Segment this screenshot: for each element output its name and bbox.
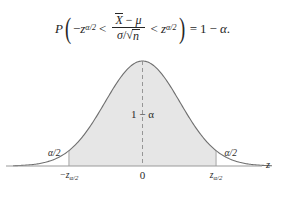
formula-fraction: X−μ σ/√n <box>112 13 144 44</box>
formula-right-bound-sub: α/2 <box>166 24 177 32</box>
formula-one: 1 <box>200 22 207 35</box>
formula-alpha: α <box>220 22 227 35</box>
formula-less-than-2: < <box>151 22 158 35</box>
tick-label-left: −zα/2 <box>59 170 79 181</box>
center-area-label: 1 − α <box>131 108 154 120</box>
formula-equals: = <box>190 22 197 35</box>
formula-xbar: X <box>115 13 122 27</box>
formula-less-than-1: < <box>99 22 106 35</box>
formula-numerator-minus: − <box>126 13 133 27</box>
statistics-figure: P ( −zα/2 < X−μ σ/√n < zα/2 ) = 1 − α. <box>0 0 285 197</box>
tick-label-center: 0 <box>140 169 146 181</box>
axis-label-z: z <box>265 159 270 170</box>
probability-formula: P ( −zα/2 < X−μ σ/√n < zα/2 ) = 1 − α. <box>0 4 285 52</box>
formula-radical-body: n <box>132 29 140 43</box>
formula-numerator: X−μ <box>112 13 144 28</box>
right-tail-label: α/2 <box>225 148 238 158</box>
formula-expression: P ( −zα/2 < X−μ σ/√n < zα/2 ) = 1 − α. <box>55 13 230 44</box>
tick-label-left-base: −z <box>59 170 69 180</box>
left-tail-label: α/2 <box>48 148 61 158</box>
normal-distribution-chart: z 1 − α α/2 α/2 −zα/2 0 zα/2 <box>0 52 285 197</box>
formula-denominator: σ/√n <box>114 28 143 43</box>
tick-label-right-sub: α/2 <box>213 174 222 181</box>
formula-mu: μ <box>136 13 142 27</box>
tick-label-right: zα/2 <box>209 170 223 181</box>
chart-svg: z 1 − α α/2 α/2 −zα/2 0 zα/2 <box>0 52 285 197</box>
formula-rhs-minus: − <box>210 22 217 35</box>
formula-left-bound-sub: α/2 <box>85 24 96 32</box>
tick-label-left-sub: α/2 <box>70 174 79 181</box>
formula-p-symbol: P <box>55 22 63 35</box>
formula-sqrt-n: √n <box>126 29 140 43</box>
formula-period: . <box>227 22 230 35</box>
